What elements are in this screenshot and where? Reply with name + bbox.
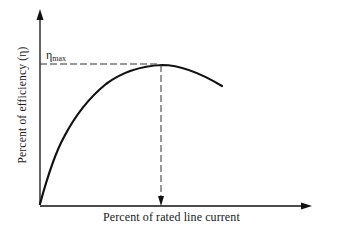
peak-down-arrow-icon xyxy=(158,196,164,206)
diagram-canvas xyxy=(0,0,337,235)
efficiency-diagram: ηmax Percent of efficiency (η) Percent o… xyxy=(0,0,337,235)
x-axis-arrow-icon xyxy=(301,203,312,210)
y-axis-label: Percent of efficiency (η) xyxy=(16,46,28,163)
eta-max-label: ηmax xyxy=(46,48,66,63)
x-axis-label: Percent of rated line current xyxy=(103,210,240,225)
efficiency-curve xyxy=(40,65,222,204)
y-axis-arrow-icon xyxy=(37,9,44,20)
